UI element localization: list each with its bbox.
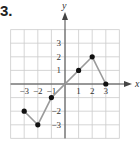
y-axis-label: y	[61, 0, 67, 11]
x-tick-label: 2	[90, 86, 95, 96]
x-axis-label: x	[134, 78, 140, 89]
coordinate-plane-chart: xy−3−2−1123321−2−3	[0, 0, 140, 148]
y-tick-label: −2	[51, 106, 61, 116]
graph-segment	[24, 111, 38, 125]
data-point	[76, 68, 81, 73]
y-tick-label: 2	[57, 52, 62, 62]
x-tick-label: −3	[19, 86, 29, 96]
x-tick-label: −2	[33, 86, 43, 96]
x-tick-label: 1	[76, 86, 81, 96]
data-point	[49, 95, 54, 100]
data-point	[35, 122, 40, 127]
graph-segment	[51, 57, 92, 98]
data-point	[90, 54, 95, 59]
x-axis-arrow-icon	[124, 81, 132, 87]
y-tick-label: −3	[51, 120, 61, 130]
y-tick-label: 3	[57, 38, 62, 48]
y-tick-label: 1	[57, 65, 62, 75]
x-tick-label: 3	[104, 86, 109, 96]
data-point	[22, 109, 27, 114]
y-axis-arrow-icon	[62, 12, 68, 20]
data-point	[103, 81, 108, 86]
